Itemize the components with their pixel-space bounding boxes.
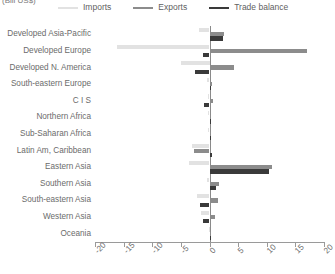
category-label: South-eastern Asia	[0, 195, 91, 204]
legend-item-exports[interactable]: Exports	[133, 3, 187, 12]
chart-row	[95, 76, 324, 93]
bar-exports	[210, 198, 219, 202]
axis-tick-label: -5	[179, 244, 191, 256]
axis-tick-label: 0	[208, 246, 218, 256]
plot-area	[95, 26, 324, 242]
bar-balance	[203, 53, 209, 57]
bar-imports	[201, 211, 209, 215]
legend-swatch-balance	[209, 7, 229, 9]
category-label: Oceania	[0, 229, 91, 238]
bar-exports	[210, 99, 213, 103]
chart-row	[95, 92, 324, 109]
bar-balance	[210, 153, 212, 157]
bar-exports	[210, 215, 215, 219]
bar-balance	[210, 169, 270, 173]
bar-imports	[117, 45, 210, 49]
bar-imports	[181, 61, 210, 65]
unit-caption: (Bill US$)	[2, 0, 36, 5]
category-label: Western Asia	[0, 212, 91, 221]
category-label: South-eastern Europe	[0, 79, 91, 88]
category-label: Sub-Saharan Africa	[0, 129, 91, 138]
chart-row	[95, 192, 324, 209]
chart-row	[95, 26, 324, 43]
chart-row	[95, 225, 324, 242]
category-label: C I S	[0, 96, 91, 105]
legend-item-balance[interactable]: Trade balance	[209, 3, 288, 12]
category-label: Eastern Asia	[0, 162, 91, 171]
bar-balance	[210, 186, 217, 190]
category-label: Developed N. America	[0, 63, 91, 72]
chart-legend: ImportsExportsTrade balance	[58, 3, 288, 12]
chart-row	[95, 59, 324, 76]
bar-balance	[195, 70, 210, 74]
legend-label-exports: Exports	[158, 3, 187, 12]
bar-balance	[203, 219, 210, 223]
bar-exports	[210, 65, 234, 69]
legend-label-balance: Trade balance	[234, 3, 288, 12]
bar-balance	[210, 136, 211, 140]
legend-item-imports[interactable]: Imports	[58, 3, 111, 12]
bar-balance	[210, 119, 211, 123]
category-label: Developed Europe	[0, 46, 91, 55]
chart-row	[95, 43, 324, 60]
bar-balance	[210, 36, 223, 40]
legend-label-imports: Imports	[83, 3, 111, 12]
chart-row	[95, 142, 324, 159]
axis-tick-label: 5	[236, 246, 246, 256]
legend-swatch-exports	[133, 7, 153, 9]
category-label: Northern Africa	[0, 112, 91, 121]
value-axis: -20-15-10-505101520	[95, 242, 324, 274]
category-label: Latin Am, Caribbean	[0, 146, 91, 155]
chart-row	[95, 126, 324, 143]
bar-exports	[194, 149, 209, 153]
bar-balance	[204, 103, 209, 107]
bar-balance	[210, 86, 212, 90]
legend-swatch-imports	[58, 7, 78, 9]
bar-imports	[197, 194, 209, 198]
bar-imports	[199, 28, 209, 32]
bar-imports	[189, 161, 210, 165]
chart-row	[95, 209, 324, 226]
chart-row	[95, 159, 324, 176]
chart-row	[95, 109, 324, 126]
bar-exports	[210, 49, 307, 53]
category-label: Southern Asia	[0, 179, 91, 188]
category-label: Developed Asia-Pacific	[0, 29, 91, 38]
bar-balance	[200, 203, 209, 207]
bar-balance	[210, 236, 211, 240]
chart-row	[95, 176, 324, 193]
category-axis-labels: Developed Asia-PacificDeveloped EuropeDe…	[0, 26, 91, 242]
